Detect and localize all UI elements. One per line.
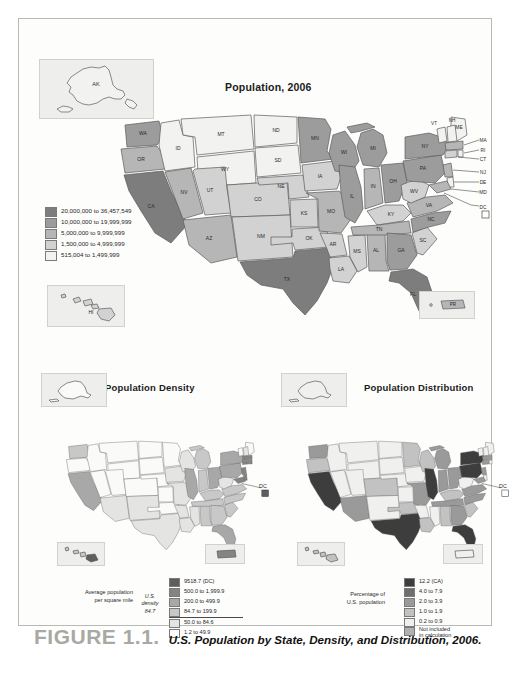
dist-MA (482, 455, 492, 460)
dc-marker-main (482, 211, 489, 218)
dist-VT (478, 448, 483, 457)
figure-page: Population, 2006 AK (0, 0, 516, 687)
state-label-CT: CT (480, 157, 486, 162)
dist-IN (438, 470, 448, 492)
legend-row: 4.0 to 7.9 (404, 587, 457, 597)
figure-caption: FIGURE 1.1. U.S. Population by State, De… (34, 625, 486, 649)
state-label-HI: HI (89, 309, 94, 315)
legend-label: 4.0 to 7.9 (419, 589, 442, 595)
dist-NJ (481, 467, 486, 475)
legend-swatch (404, 588, 415, 597)
legend-label: 2.0 to 3.9 (419, 599, 442, 605)
legend-row: 20,000,000 to 36,457,549 (45, 206, 132, 217)
legend-swatch (404, 598, 415, 607)
legend-swatch (404, 578, 415, 587)
figure-card: Population, 2006 AK (18, 18, 492, 626)
legend-row: 515,004 to 1,499,999 (45, 250, 132, 261)
legend-row: 1,500,000 to 4,999,999 (45, 239, 132, 250)
hawaii-map-distribution (297, 542, 345, 566)
legend-row: 9518.7 (DC) (169, 577, 243, 587)
dist-CO (364, 477, 398, 497)
state-WA (125, 121, 163, 147)
legend-swatch (45, 229, 57, 239)
state-SD (255, 145, 301, 177)
legend-label: 515,004 to 1,499,999 (61, 252, 120, 259)
legend-swatch (169, 588, 180, 597)
distribution-dc-label: DC (499, 483, 507, 489)
density-NH (243, 447, 248, 456)
dist-AZ (340, 495, 369, 521)
puertorico-map-population: PR (419, 291, 475, 319)
legend-row: 2.0 to 3.9 (404, 597, 457, 607)
alaska-map-distribution (281, 373, 347, 407)
legend-swatch (169, 598, 180, 607)
density-OR (66, 458, 90, 473)
dist-MI (435, 449, 451, 470)
density-AZ (100, 495, 129, 521)
density-NJ (241, 467, 246, 475)
legend-row: 500.0 to 1,999.9 (169, 587, 243, 597)
alaska-map-density (41, 373, 107, 407)
dist-KS (398, 487, 413, 502)
dist-AL (440, 505, 452, 526)
dist-RI (489, 460, 492, 464)
legend-row: 5,000,000 to 9,999,999 (45, 228, 132, 239)
legend-swatch (45, 240, 57, 250)
legend-label: 20,000,000 to 36,457,549 (61, 208, 132, 215)
alaska-map-population: AK (39, 59, 154, 119)
state-label-VT: VT (431, 121, 437, 126)
state-label-NJ: NJ (480, 170, 486, 175)
hawaii-map-population: HI (47, 285, 125, 327)
legend-swatch (169, 578, 180, 587)
state-IN (364, 168, 383, 209)
state-ND (254, 115, 297, 147)
state-label-RI: RI (481, 148, 486, 153)
dist-PA (460, 463, 483, 478)
state-label-MA: MA (479, 138, 487, 143)
density-CT (242, 460, 249, 464)
legend-swatch (45, 218, 57, 228)
state-CO (227, 181, 290, 217)
legend-label: 12.2 (CA) (419, 579, 443, 585)
state-MI (357, 129, 387, 167)
legend-label: 9518.7 (DC) (184, 579, 214, 585)
density-SD (139, 457, 164, 474)
state-label-DC-main: DC (480, 205, 487, 210)
density-AL (200, 505, 212, 526)
figure-number: FIGURE 1.1. (34, 625, 160, 649)
legend-row: 10,000,000 to 19,999,999 (45, 217, 132, 228)
state-AZ (183, 215, 237, 263)
state-CT (445, 150, 457, 158)
distribution-side-caption: Percentage ofU.S. population (319, 591, 385, 606)
legend-row: 84.7 to 199.9 (169, 607, 243, 617)
density-MA (242, 455, 252, 460)
state-AL (367, 233, 389, 271)
legend-label: 84.7 to 199.9 (184, 609, 217, 615)
density-MN (163, 442, 182, 467)
density-ND (139, 441, 162, 458)
density-dc-label: DC (259, 483, 267, 489)
dist-WA (309, 444, 330, 458)
density-GA (211, 505, 227, 525)
state-AK (67, 66, 125, 105)
legend-label: 200.0 to 499.9 (184, 599, 220, 605)
state-NJ (443, 163, 453, 177)
density-MI (195, 449, 211, 470)
density-side-caption: Average populationper square mile (67, 589, 133, 604)
density-dc-marker (262, 490, 269, 497)
figure-caption-text: U.S. Population by State, Density, and D… (169, 633, 482, 646)
dist-MN (403, 442, 422, 467)
puertorico-map-density (205, 544, 245, 564)
population-legend: 20,000,000 to 36,457,549 10,000,000 to 1… (45, 206, 132, 261)
density-RI (249, 460, 252, 464)
puertorico-map-distribution (443, 544, 483, 564)
state-label-DE: DE (480, 180, 487, 185)
dist-CT (482, 460, 489, 464)
density-WA (69, 444, 90, 458)
legend-row: 1.0 to 1.9 (404, 607, 457, 617)
legend-swatch (169, 608, 180, 617)
distribution-dc-marker (502, 490, 509, 497)
legend-label: 1,500,000 to 4,999,999 (61, 241, 125, 248)
state-OR (121, 146, 165, 173)
density-KS (158, 487, 173, 502)
